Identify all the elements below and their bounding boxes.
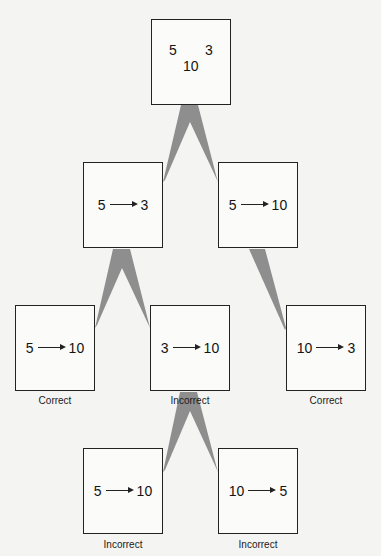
move-to: 3 <box>141 198 149 212</box>
root-value-right: 3 <box>205 42 213 58</box>
move-from: 5 <box>98 198 106 212</box>
arrow-right-icon <box>110 204 138 206</box>
node-l3-right: 10 3 <box>286 305 366 391</box>
move-to: 10 <box>137 484 153 498</box>
move-to: 10 <box>204 341 220 355</box>
move-to: 3 <box>347 341 355 355</box>
node-l3-middle: 3 10 <box>150 305 230 391</box>
node-l3-middle-result: Incorrect <box>150 395 230 406</box>
move: 5 3 <box>84 198 162 212</box>
tree-diagram: 5 3 10 5 3 5 10 5 10 Correct 3 <box>0 0 381 556</box>
connector-l2-right-to-l3-right <box>249 249 286 330</box>
move: 5 10 <box>16 341 94 355</box>
arrow-right-icon <box>248 490 276 492</box>
node-l4-right-result: Incorrect <box>218 539 298 550</box>
arrow-right-icon <box>106 490 134 492</box>
move: 5 10 <box>84 484 162 498</box>
move-from: 10 <box>297 341 313 355</box>
node-l4-left-result: Incorrect <box>83 539 163 550</box>
node-l4-left: 5 10 <box>83 448 163 534</box>
arrow-right-icon <box>173 347 201 349</box>
node-l3-left: 5 10 <box>15 305 95 391</box>
move: 5 10 <box>219 198 297 212</box>
root-value-bottom: 10 <box>183 58 199 74</box>
arrow-right-icon <box>38 347 66 349</box>
node-l3-left-result: Correct <box>15 395 95 406</box>
node-l2-left: 5 3 <box>83 162 163 248</box>
node-l2-right: 5 10 <box>218 162 298 248</box>
move: 10 3 <box>287 341 365 355</box>
move-to: 10 <box>272 198 288 212</box>
move-from: 5 <box>94 484 102 498</box>
move-from: 10 <box>229 484 245 498</box>
move: 10 5 <box>219 484 297 498</box>
move-from: 5 <box>229 198 237 212</box>
move: 3 10 <box>151 341 229 355</box>
root-values: 5 3 10 <box>152 20 230 104</box>
move-to: 5 <box>279 484 287 498</box>
move-from: 5 <box>26 341 34 355</box>
node-l3-right-result: Correct <box>286 395 366 406</box>
node-l4-right: 10 5 <box>218 448 298 534</box>
arrow-right-icon <box>241 204 269 206</box>
root-value-left: 5 <box>169 42 177 58</box>
root-node: 5 3 10 <box>151 19 231 105</box>
move-to: 10 <box>69 341 85 355</box>
arrow-right-icon <box>316 347 344 349</box>
move-from: 3 <box>161 341 169 355</box>
